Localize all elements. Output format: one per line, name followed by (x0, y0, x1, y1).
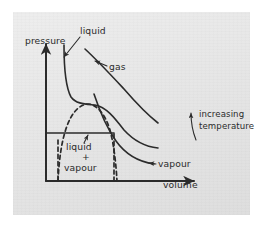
label-vapour: vapour (158, 158, 191, 169)
label-liquid: liquid (80, 25, 106, 36)
label-liquid-vapour-line2: vapour (64, 162, 97, 173)
liquid-leader-line (64, 37, 80, 57)
label-liquid-vapour-plus: + (82, 151, 90, 162)
label-increasing-temperature-line2: temperature (199, 121, 254, 131)
label-gas: gas (109, 61, 126, 72)
y-axis-label-pressure: pressure (25, 35, 66, 46)
increasing-temperature-arrow (191, 113, 196, 140)
phase-diagram-plot: pressure volume liquid gas vapour liquid… (0, 0, 262, 226)
x-axis-label-volume: volume (163, 179, 198, 190)
figure-root: pressure volume liquid gas vapour liquid… (0, 0, 262, 226)
label-increasing-temperature-line1: increasing (199, 109, 244, 119)
